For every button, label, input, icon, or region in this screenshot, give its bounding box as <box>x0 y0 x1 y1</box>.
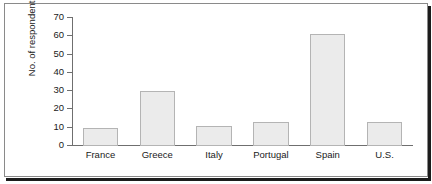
y-axis-tick-label: 50 <box>53 48 64 59</box>
chart-area: No. of respondents 010203040506070 Franc… <box>4 3 428 177</box>
x-axis-category-label: Spain <box>299 149 356 160</box>
bar <box>83 128 118 146</box>
x-axis-category-label: France <box>72 149 129 160</box>
bar <box>253 122 288 146</box>
bar-slot <box>253 17 288 146</box>
y-axis-tick-label: 30 <box>53 84 64 95</box>
bar-slot <box>83 17 118 146</box>
bar <box>140 91 175 146</box>
x-axis-category-label: Portugal <box>243 149 300 160</box>
x-axis-category-label: Greece <box>129 149 186 160</box>
y-axis-tick-label: 20 <box>53 102 64 113</box>
bar-slot <box>140 17 175 146</box>
bar-slot <box>196 17 231 146</box>
bar-series <box>72 17 413 146</box>
y-axis-title: No. of respondents <box>25 0 39 96</box>
x-axis-category-label: U.S. <box>356 149 413 160</box>
y-axis-tick-label: 10 <box>53 121 64 132</box>
bar <box>196 126 231 146</box>
figure-shadow-bottom <box>6 178 430 181</box>
bar-slot <box>367 17 402 146</box>
y-axis-tick-label: 40 <box>53 66 64 77</box>
bar-slot <box>310 17 345 146</box>
y-axis-tick-label: 60 <box>53 29 64 40</box>
bar-chart-screenshot: No. of respondents 010203040506070 Franc… <box>0 0 432 184</box>
x-axis-category-label: Italy <box>186 149 243 160</box>
y-axis-tick-label: 70 <box>53 11 64 22</box>
bar <box>367 122 402 146</box>
bar <box>310 34 345 146</box>
y-axis-tick-label: 0 <box>59 139 64 150</box>
figure-shadow-right <box>428 6 431 181</box>
